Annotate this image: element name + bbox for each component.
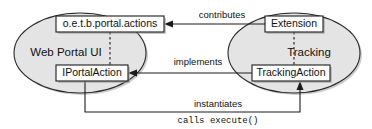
node-extension[interactable]: Extension: [265, 16, 325, 34]
extension-label: Extension: [271, 17, 317, 29]
calls-execute-label: calls execute(): [177, 116, 258, 126]
uml-diagram-canvas: Web Portal UI Tracking contributes imple…: [0, 0, 372, 129]
contributes-label: contributes: [199, 9, 246, 20]
node-portal-actions[interactable]: o.e.t.b.portal.actions: [56, 16, 166, 34]
implements-label: implements: [174, 56, 223, 67]
trackingaction-label: TrackingAction: [256, 66, 325, 78]
iportalaction-label: IPortalAction: [62, 66, 122, 78]
diagram-svg: Web Portal UI Tracking contributes imple…: [0, 0, 372, 129]
instantiates-label: instantiates: [194, 98, 242, 109]
node-iportalaction[interactable]: IPortalAction: [56, 65, 130, 83]
node-trackingaction[interactable]: TrackingAction: [252, 65, 332, 83]
web-portal-ui-label: Web Portal UI: [30, 46, 101, 58]
portal-actions-label: o.e.t.b.portal.actions: [63, 17, 158, 29]
